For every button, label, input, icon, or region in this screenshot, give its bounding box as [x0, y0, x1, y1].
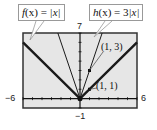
ymin-label: −1 [75, 111, 85, 121]
origin-point [78, 96, 83, 101]
ymax-label: 7 [77, 21, 82, 31]
legend-callout-h: h(x) = 3|x| [89, 4, 143, 21]
f-body: |x| [50, 6, 61, 18]
legend-callout-f: f(x) = |x| [18, 4, 65, 21]
f-eq: = [38, 6, 50, 18]
f-arg: (x) [25, 6, 38, 18]
xmax-label: 6 [141, 93, 146, 103]
point-label-1-1: (1, 1) [96, 80, 118, 91]
xmin-label: −6 [5, 93, 15, 103]
h-body: |x| [129, 6, 140, 18]
point-label-1-3: (1, 3) [101, 41, 123, 52]
h-eq: = 3 [111, 6, 128, 18]
h-arg: (x) [99, 6, 112, 18]
